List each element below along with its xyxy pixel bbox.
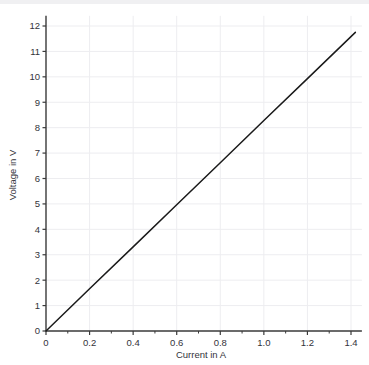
- y-tick-label: 6: [35, 173, 40, 184]
- y-tick-label: 4: [35, 224, 40, 235]
- y-axis-title: Voltage in V: [7, 149, 18, 200]
- y-tick-label: 1: [35, 300, 40, 311]
- x-axis-title: Current in A: [176, 349, 227, 360]
- axis-layer: [46, 16, 362, 331]
- y-tick-label: 9: [35, 97, 40, 108]
- x-tick-label: 0.6: [170, 337, 183, 348]
- x-tick-label: 1.4: [344, 337, 357, 348]
- y-tick-label: 5: [35, 198, 40, 209]
- x-tick-label: 1.0: [257, 337, 270, 348]
- chart-figure: 012345678910111200.20.40.60.81.01.21.4 C…: [0, 0, 369, 365]
- y-tick-label: 0: [35, 325, 40, 336]
- y-tick-label: 7: [35, 147, 40, 158]
- y-tick-label: 11: [30, 46, 40, 57]
- y-tick-label: 2: [35, 275, 40, 286]
- x-tick-label: 0.8: [214, 337, 227, 348]
- grid-layer: [46, 16, 362, 331]
- y-tick-label: 12: [29, 20, 40, 31]
- voltage-current-plot: 012345678910111200.20.40.60.81.01.21.4 C…: [0, 0, 369, 365]
- y-tick-label: 10: [29, 71, 40, 82]
- y-tick-label: 3: [35, 249, 40, 260]
- x-tick-label: 1.2: [301, 337, 314, 348]
- x-tick-label: 0: [43, 337, 48, 348]
- y-tick-label: 8: [35, 122, 40, 133]
- x-tick-label: 0.2: [83, 337, 96, 348]
- x-tick-label: 0.4: [127, 337, 140, 348]
